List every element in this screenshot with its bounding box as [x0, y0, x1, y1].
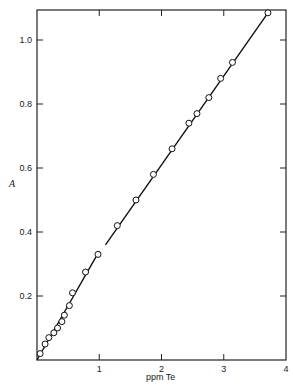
data-point [95, 251, 101, 257]
plot-frame [37, 10, 286, 360]
axis-ticks [37, 10, 286, 360]
data-point [83, 269, 89, 275]
x-tick-label: 3 [221, 364, 226, 374]
data-point [169, 146, 175, 152]
y-tick-label: 0.4 [19, 227, 32, 237]
data-point [46, 335, 52, 341]
data-point [55, 325, 61, 331]
data-point [186, 120, 192, 126]
data-point [61, 312, 67, 318]
x-tick-label: 1 [97, 364, 102, 374]
data-point [42, 341, 48, 347]
y-tick-label: 0.6 [19, 163, 32, 173]
data-point [114, 223, 120, 229]
data-point [37, 351, 43, 357]
data-points [37, 10, 271, 357]
data-point [66, 303, 72, 309]
data-point [59, 319, 65, 325]
data-point [133, 197, 139, 203]
data-point [206, 95, 212, 101]
data-point [218, 75, 224, 81]
data-point [265, 10, 271, 16]
y-axis-title: A [8, 178, 16, 189]
y-tick-label: 1.0 [19, 35, 32, 45]
data-point [69, 290, 75, 296]
fit-segment-high [105, 11, 269, 245]
data-point [194, 111, 200, 117]
calibration-chart: 12340.20.40.60.81.0 ppm Te A [0, 0, 293, 386]
y-tick-label: 0.8 [19, 99, 32, 109]
data-point [229, 59, 235, 65]
x-axis-title: ppm Te [146, 372, 175, 382]
x-tick-label: 4 [283, 364, 288, 374]
y-tick-label: 0.2 [19, 291, 32, 301]
data-point [150, 171, 156, 177]
